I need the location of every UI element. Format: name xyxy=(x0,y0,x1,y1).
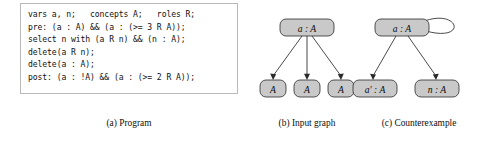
input-graph-diagram: a : A A A A xyxy=(255,14,359,110)
input-graph-root-node: a : A xyxy=(280,19,334,36)
arrowhead-1 xyxy=(370,74,376,80)
caption-input-graph: (b) Input graph xyxy=(255,118,359,128)
input-graph-child-node-3: A xyxy=(328,80,354,97)
counterexample-child-node-1: a′ : A xyxy=(353,80,397,97)
input-graph-edges xyxy=(270,36,344,80)
input-graph-child-node-2: A xyxy=(294,80,320,97)
edge-root-to-child-3 xyxy=(312,36,341,76)
node-label-child-3: A xyxy=(337,84,344,95)
counterexample-graph-diagram: a : A a′ : A n : A xyxy=(352,14,478,110)
edge-root-to-child-1 xyxy=(373,36,396,76)
program-source-text: vars a, n; concepts A; roles R; pre: (a … xyxy=(28,8,195,84)
program-code-panel: vars a, n; concepts A; roles R; pre: (a … xyxy=(20,3,238,94)
arrowhead-2 xyxy=(433,74,439,80)
input-graph-child-node-1: A xyxy=(260,80,286,97)
counterexample-child-node-2: n : A xyxy=(415,80,459,97)
node-label-child-2: A xyxy=(303,84,310,95)
counterexample-root-node: a : A xyxy=(375,19,429,36)
caption-program: (a) Program xyxy=(0,118,258,128)
figure-root: vars a, n; concepts A; roles R; pre: (a … xyxy=(0,0,481,143)
node-label-child-1: A xyxy=(269,84,276,95)
node-label-child-1: a′ : A xyxy=(365,84,386,95)
edge-root-to-child-1 xyxy=(273,36,302,76)
arrowhead-1 xyxy=(270,74,276,80)
arrowhead-2 xyxy=(304,74,310,80)
node-label-root: a : A xyxy=(298,23,317,34)
node-label-root: a : A xyxy=(393,23,412,34)
caption-counterexample: (c) Counterexample xyxy=(360,118,478,128)
edge-root-to-child-2 xyxy=(408,36,436,76)
node-label-child-2: n : A xyxy=(428,84,447,95)
arrowhead-3 xyxy=(338,74,344,80)
